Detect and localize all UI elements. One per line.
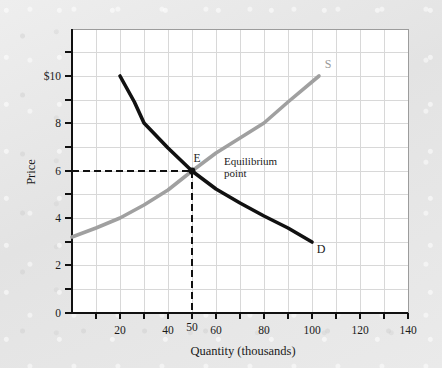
y-tick-label-2: 2 [55, 259, 61, 271]
supply-demand-chart: $10 8 6 4 2 0 20 40 50 60 80 100 120 140… [0, 0, 442, 368]
demand-curve-label: D [317, 242, 326, 256]
x-tick-label-60: 60 [210, 324, 222, 336]
equilibrium-point-marker [189, 168, 196, 175]
y-tick-label-0: 0 [55, 307, 61, 319]
x-tick-label-100: 100 [303, 324, 321, 336]
y-tick-label-6: 6 [55, 165, 61, 177]
x-tick-label-20: 20 [114, 324, 126, 336]
x-tick-label-120: 120 [351, 324, 369, 336]
supply-curve-label: S [325, 57, 332, 71]
x-tick-label-50: 50 [186, 321, 198, 333]
x-tick-label-140: 140 [399, 324, 417, 336]
y-tick-label-8: 8 [55, 117, 61, 129]
y-axis-title: Price [24, 159, 38, 185]
x-axis-title: Quantity (thousands) [190, 344, 295, 358]
equilibrium-annotation-line2: point [224, 167, 247, 179]
equilibrium-label-E: E [193, 152, 200, 164]
y-tick-label-10: $10 [44, 70, 62, 82]
figure-container: $10 8 6 4 2 0 20 40 50 60 80 100 120 140… [0, 0, 442, 368]
equilibrium-annotation-line1: Equilibrium [224, 155, 278, 167]
x-tick-label-80: 80 [258, 324, 270, 336]
y-tick-label-4: 4 [55, 212, 61, 224]
x-tick-label-40: 40 [162, 324, 174, 336]
